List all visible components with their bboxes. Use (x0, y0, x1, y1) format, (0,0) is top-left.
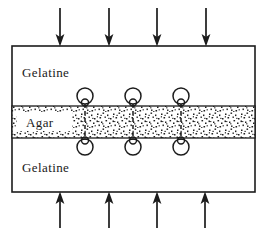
top-load-arrows (56, 8, 211, 47)
load-arrow-up (201, 192, 210, 229)
agar-layer-label: Agar (26, 115, 54, 130)
bottom-gelatine-label: Gelatine (22, 160, 69, 175)
load-arrow-down (56, 8, 65, 47)
gelatine-agar-diagram: Gelatine Agar Gelatine (0, 0, 264, 235)
load-arrow-up (105, 192, 114, 229)
load-arrow-up (153, 192, 162, 229)
top-gelatine-label: Gelatine (22, 65, 69, 80)
bottom-load-arrows (56, 192, 210, 229)
load-arrow-down (105, 8, 114, 47)
load-arrow-down (202, 8, 211, 47)
figure-root: Gelatine Agar Gelatine (0, 0, 264, 235)
load-arrow-up (56, 192, 65, 229)
load-arrow-down (153, 8, 162, 47)
